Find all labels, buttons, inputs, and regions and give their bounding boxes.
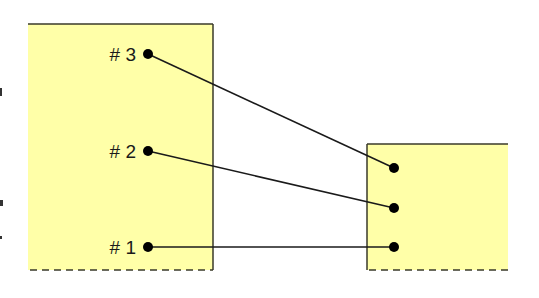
port-dot-left-1 <box>143 242 153 252</box>
port-dot-right-1 <box>389 242 399 252</box>
connection-diagram: # 3 # 2 # 1 <box>0 0 539 298</box>
cropped-text-fragment <box>0 200 3 206</box>
port-label-1: # 1 <box>110 237 136 258</box>
port-dot-right-3 <box>389 163 399 173</box>
port-dot-left-2 <box>143 146 153 156</box>
port-dot-right-2 <box>389 203 399 213</box>
port-dot-left-3 <box>143 49 153 59</box>
port-label-3: # 3 <box>110 44 136 65</box>
port-label-2: # 2 <box>110 141 136 162</box>
cropped-text-fragment <box>0 236 2 239</box>
cropped-text-fragment <box>0 88 2 96</box>
